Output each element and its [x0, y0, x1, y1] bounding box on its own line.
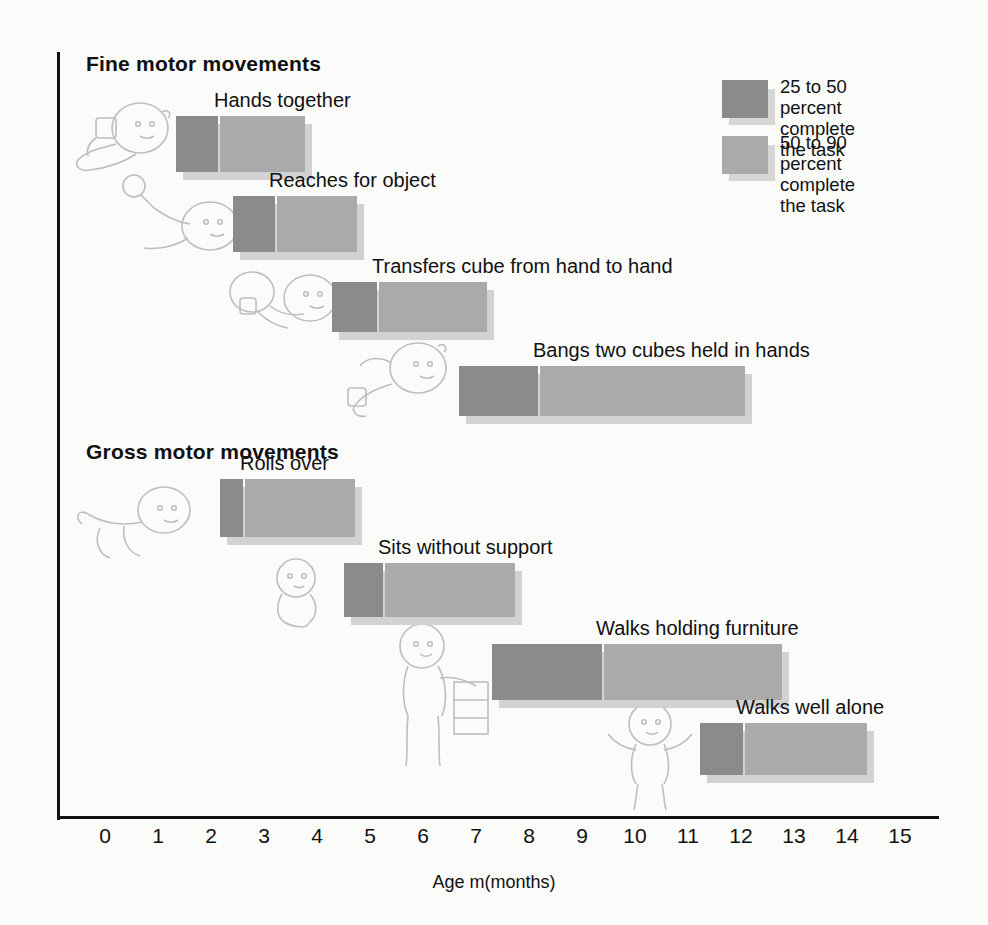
- x-tick-13: 13: [782, 824, 805, 848]
- x-tick-1: 1: [152, 824, 164, 848]
- x-axis-title: Age m(months): [0, 872, 988, 893]
- x-tick-6: 6: [417, 824, 429, 848]
- bar-segment-25-50: [459, 366, 538, 416]
- baby-transferring-cube-icon: [218, 262, 348, 346]
- bar-transfers-cube[interactable]: Transfers cube from hand to hand: [332, 282, 487, 332]
- section-heading-fine-motor: Fine motor movements: [86, 52, 321, 76]
- bar-segment-50-90: [245, 479, 355, 537]
- bar-segment-50-90: [277, 196, 357, 252]
- baby-lying-hands-together-icon: [66, 98, 176, 176]
- x-tick-8: 8: [523, 824, 535, 848]
- x-tick-5: 5: [364, 824, 376, 848]
- bar-hands-together[interactable]: Hands together: [176, 116, 305, 172]
- x-tick-3: 3: [258, 824, 270, 848]
- x-tick-4: 4: [311, 824, 323, 848]
- x-tick-15: 15: [888, 824, 911, 848]
- bar-segment-50-90: [220, 116, 305, 172]
- bar-segment-50-90: [745, 723, 867, 775]
- bar-sits-without-support[interactable]: Sits without support: [344, 563, 515, 617]
- bar-segment-25-50: [332, 282, 377, 332]
- bar-walks-well-alone[interactable]: Walks well alone: [700, 723, 867, 775]
- bar-label-sits-without-support: Sits without support: [378, 536, 553, 559]
- baby-walking-furniture-icon: [382, 620, 494, 770]
- x-tick-2: 2: [205, 824, 217, 848]
- legend-swatch-dark: [722, 80, 768, 118]
- bar-bangs-two-cubes[interactable]: Bangs two cubes held in hands: [459, 366, 745, 416]
- bar-walks-holding-furniture[interactable]: Walks holding furniture: [492, 644, 782, 700]
- x-tick-7: 7: [470, 824, 482, 848]
- bar-segment-25-50: [700, 723, 743, 775]
- baby-rolling-over-icon: [64, 466, 200, 564]
- bar-label-hands-together: Hands together: [214, 89, 351, 112]
- bar-label-rolls-over: Rolls over: [240, 452, 329, 475]
- x-tick-11: 11: [677, 824, 699, 848]
- x-tick-9: 9: [576, 824, 588, 848]
- baby-sitting-icon: [250, 556, 340, 632]
- x-axis-line: [57, 816, 939, 819]
- bar-label-reaches-for-object: Reaches for object: [269, 169, 436, 192]
- baby-reaching-rattle-icon: [118, 172, 246, 258]
- bar-label-walks-well-alone: Walks well alone: [736, 696, 884, 719]
- bar-segment-50-90: [540, 366, 745, 416]
- legend-label-50-90: 50 to 90 percent complete the task: [780, 132, 855, 216]
- bar-segment-25-50: [220, 479, 243, 537]
- milestones-chart: Fine motor movements Gross motor movemen…: [0, 0, 988, 925]
- bar-segment-25-50: [233, 196, 275, 252]
- legend-swatch-light: [722, 136, 768, 174]
- baby-walking-alone-icon: [602, 700, 698, 812]
- bar-rolls-over[interactable]: Rolls over: [220, 479, 355, 537]
- x-tick-10: 10: [623, 824, 646, 848]
- bar-label-transfers-cube: Transfers cube from hand to hand: [372, 255, 673, 278]
- y-axis-line: [57, 52, 60, 820]
- bar-label-bangs-two-cubes: Bangs two cubes held in hands: [533, 339, 810, 362]
- bar-segment-50-90: [379, 282, 487, 332]
- baby-banging-cubes-icon: [330, 336, 466, 428]
- bar-segment-25-50: [176, 116, 218, 172]
- bar-segment-25-50: [492, 644, 602, 700]
- bar-label-walks-holding-furniture: Walks holding furniture: [596, 617, 799, 640]
- x-tick-12: 12: [729, 824, 752, 848]
- bar-segment-25-50: [344, 563, 383, 617]
- bar-reaches-for-object[interactable]: Reaches for object: [233, 196, 357, 252]
- bar-segment-50-90: [385, 563, 515, 617]
- x-tick-14: 14: [835, 824, 858, 848]
- x-tick-0: 0: [99, 824, 111, 848]
- bar-segment-50-90: [604, 644, 782, 700]
